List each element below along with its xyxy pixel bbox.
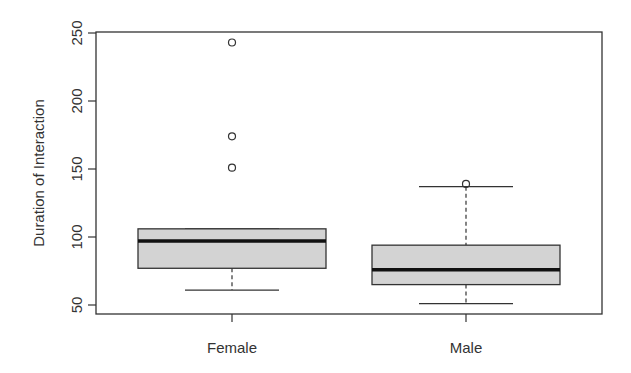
- box-female: [138, 39, 326, 290]
- x-tick-label: Female: [207, 339, 257, 356]
- boxplot-chart: 50100150200250 FemaleMale Duration of In…: [0, 0, 631, 373]
- boxes: [138, 39, 560, 304]
- y-tick-label: 50: [68, 297, 85, 314]
- y-axis: 50100150200250: [68, 20, 96, 313]
- iqr-box: [372, 245, 560, 284]
- x-tick-label: Male: [450, 339, 483, 356]
- x-axis: FemaleMale: [207, 314, 482, 356]
- y-tick-label: 250: [68, 20, 85, 45]
- y-axis-label: Duration of Interaction: [30, 99, 47, 247]
- outlier-point: [229, 133, 236, 140]
- y-tick-label: 200: [68, 88, 85, 113]
- y-tick-label: 100: [68, 224, 85, 249]
- outlier-point: [229, 39, 236, 46]
- box-male: [372, 180, 560, 303]
- outlier-point: [229, 164, 236, 171]
- y-tick-label: 150: [68, 156, 85, 181]
- iqr-box: [138, 229, 326, 268]
